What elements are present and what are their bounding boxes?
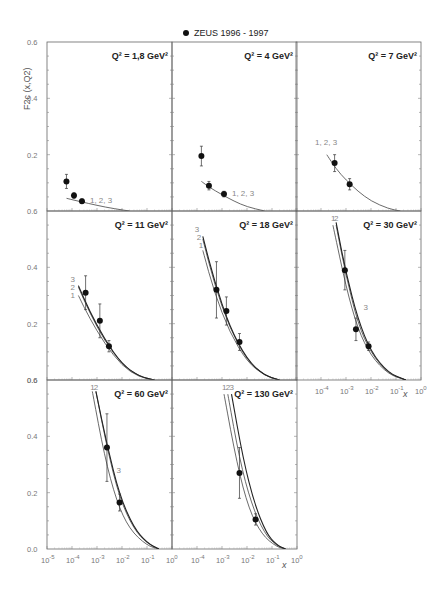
panel-frame — [47, 380, 172, 549]
theory-curve — [336, 222, 406, 380]
panel-q2-title: Q² = 1,8 GeV² — [112, 51, 168, 61]
data-point — [223, 308, 229, 314]
data-point — [198, 153, 204, 159]
panel: 10-410-310-210-1100Q² = 130 GeV²123 — [172, 380, 303, 565]
panel-frame — [172, 211, 297, 380]
theory-curve — [92, 391, 159, 549]
panel: 0.00.20.40.610-510-410-310-210-1100Q² = … — [27, 376, 178, 565]
data-point — [117, 500, 123, 506]
panel-q2-title: Q² = 4 GeV² — [244, 51, 293, 61]
y-tick-label: 0.4 — [27, 432, 37, 441]
x-axis-title-bottom: x — [281, 560, 287, 570]
data-point — [353, 326, 359, 332]
x-tick-label: 10-3 — [340, 385, 354, 396]
panel-frame — [172, 380, 297, 549]
x-tick-label: 10-2 — [116, 554, 130, 565]
x-tick-label: 100 — [291, 554, 303, 565]
data-point — [332, 160, 338, 166]
y-tick-label: 0.2 — [27, 489, 37, 498]
curve-label: 2 — [334, 214, 339, 223]
x-tick-label: 10-2 — [365, 385, 379, 396]
x-tick-label: 10-4 — [191, 554, 205, 565]
theory-curve — [327, 155, 401, 211]
theory-curve — [96, 391, 159, 549]
y-axis-title: F2c (x,Q2) — [22, 67, 32, 110]
x-tick-label: 100 — [415, 385, 427, 396]
panel-frame — [47, 211, 172, 380]
x-tick-label: 10-1 — [141, 554, 155, 565]
data-point — [221, 191, 227, 197]
panel: 10-410-310-210-1100Q² = 30 GeV²123 — [296, 211, 427, 396]
panels-group: 0.60.20.40.6Q² = 1,8 GeV²1, 2, 3Q² = 4 G… — [27, 38, 427, 565]
x-tick-label: 100 — [166, 554, 178, 565]
y-tick-label: 0.6 — [27, 38, 37, 47]
curve-label: 1 — [199, 241, 204, 250]
theory-curve — [228, 394, 286, 549]
x-tick-label: 10-3 — [216, 554, 230, 565]
theory-curve — [333, 225, 406, 380]
theory-curve — [203, 236, 280, 380]
panel-frame — [296, 42, 421, 211]
data-point — [79, 198, 85, 204]
legend-label: ZEUS 1996 - 1997 — [194, 28, 269, 38]
x-tick-label: 10-5 — [41, 554, 55, 565]
x-tick-label: 10-2 — [241, 554, 255, 565]
theory-curve — [336, 225, 406, 380]
x-tick-label: 10-4 — [315, 385, 329, 396]
panel: Q² = 4 GeV²1, 2, 3 — [172, 42, 297, 211]
curve-label: 1 — [70, 291, 75, 300]
panel: Q² = 18 GeV²321 — [172, 211, 297, 380]
data-point — [236, 470, 242, 476]
data-point — [342, 267, 348, 273]
data-point — [206, 183, 212, 189]
panel: 0.60.20.40.6Q² = 1,8 GeV²1, 2, 3 — [27, 38, 172, 216]
data-point — [71, 193, 77, 199]
panel-q2-title: Q² = 7 GeV² — [368, 51, 417, 61]
theory-curve — [203, 239, 280, 380]
y-tick-label: 0.0 — [27, 545, 37, 554]
curve-label: 3 — [363, 303, 368, 312]
curve-label: 1, 2, 3 — [232, 189, 255, 198]
curve-label: 1, 2, 3 — [315, 138, 338, 147]
curve-label: 2 — [94, 383, 99, 392]
theory-curve — [203, 250, 280, 380]
x-tick-label: 10-3 — [91, 554, 105, 565]
curve-label: 3 — [116, 466, 121, 475]
x-tick-label: 10-1 — [266, 554, 280, 565]
panel: 0.60.20.4Q² = 11 GeV²321 — [27, 211, 172, 385]
panel-q2-title: Q² = 11 GeV² — [115, 220, 168, 230]
panel: Q² = 7 GeV²1, 2, 3 — [296, 42, 421, 211]
panel-frame — [172, 42, 297, 211]
theory-curve — [96, 391, 159, 549]
curve-label: 3 — [230, 383, 235, 392]
y-tick-label: 0.2 — [27, 320, 37, 329]
curve-label: 1, 2, 3 — [90, 196, 113, 205]
y-tick-label: 0.4 — [27, 263, 37, 272]
data-point — [106, 343, 112, 349]
panel-q2-title: Q² = 18 GeV² — [239, 220, 293, 230]
y-tick-label: 0.2 — [27, 151, 37, 160]
legend-marker-icon — [183, 30, 189, 36]
y-tick-label: 0.4 — [27, 94, 37, 103]
x-tick-label: 10-4 — [66, 554, 80, 565]
panel-q2-title: Q² = 30 GeV² — [363, 220, 417, 230]
data-point — [253, 516, 259, 522]
data-point — [63, 178, 69, 184]
data-point — [236, 339, 242, 345]
panel-q2-title: Q² = 60 GeV² — [114, 389, 168, 399]
theory-curve — [78, 287, 154, 380]
theory-curve — [224, 394, 286, 549]
panel-frame — [47, 42, 172, 211]
data-point — [347, 181, 353, 187]
y-tick-label: 0.6 — [27, 207, 37, 216]
panel-frame — [296, 211, 421, 380]
data-point — [366, 343, 372, 349]
theory-curve — [78, 286, 154, 380]
theory-curve — [78, 296, 154, 381]
f2c-chart: ZEUS 1996 - 1997 F2c (x,Q2) x x 0.60.20.… — [0, 0, 444, 597]
data-point — [213, 287, 219, 293]
data-point — [83, 290, 89, 296]
panel-q2-title: Q² = 130 GeV² — [234, 389, 293, 399]
data-point — [97, 318, 103, 324]
y-tick-label: 0.6 — [27, 376, 37, 385]
